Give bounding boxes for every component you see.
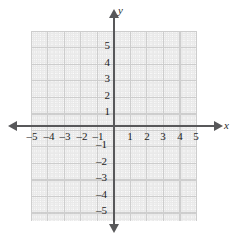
y-tick-label: 4 <box>94 57 110 68</box>
x-tick-label: –5 <box>24 131 40 142</box>
y-tick-label: 5 <box>94 40 110 51</box>
coordinate-plane: y x –5 –4 –3 –2 –1 1 2 3 4 5 5 4 3 2 1 –… <box>0 0 236 243</box>
x-tick-label: 3 <box>155 131 171 142</box>
x-tick-label: 5 <box>188 131 204 142</box>
x-tick-label: –3 <box>57 131 73 142</box>
y-tick-label: 2 <box>94 90 110 101</box>
x-axis-line <box>16 125 218 127</box>
y-tick-label: 1 <box>94 106 110 117</box>
x-axis-label: x <box>224 120 229 131</box>
x-tick-label: –2 <box>74 131 90 142</box>
y-axis-label: y <box>118 5 123 16</box>
x-axis-right-arrow-icon <box>214 121 223 131</box>
x-tick-label: 2 <box>139 131 155 142</box>
y-axis-down-arrow-icon <box>109 224 119 233</box>
y-tick-label: –2 <box>91 156 107 167</box>
x-axis-left-arrow-icon <box>8 121 17 131</box>
y-tick-label: –1 <box>91 139 107 150</box>
x-tick-label: –4 <box>41 131 57 142</box>
x-tick-label: 1 <box>122 131 138 142</box>
y-tick-label: –5 <box>91 205 107 216</box>
x-tick-label: 4 <box>172 131 188 142</box>
y-tick-label: –3 <box>91 172 107 183</box>
y-tick-label: 3 <box>94 73 110 84</box>
y-axis-line <box>113 17 115 225</box>
y-tick-label: –4 <box>91 189 107 200</box>
